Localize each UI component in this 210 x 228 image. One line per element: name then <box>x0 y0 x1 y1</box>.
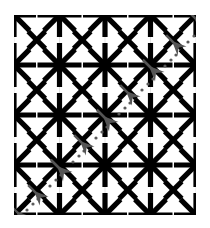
asterisk-node <box>129 143 173 187</box>
trail-dot <box>25 208 28 211</box>
trail-dot <box>54 178 57 181</box>
trail-dot <box>140 88 143 91</box>
asterisk-node <box>83 43 127 87</box>
trail-dot <box>71 160 74 163</box>
asterisk-node <box>129 93 173 137</box>
trail-dot <box>117 112 120 115</box>
lattice-illusion-figure <box>0 0 210 228</box>
trail-dot <box>48 184 51 187</box>
trail-dot <box>100 130 103 133</box>
trail-dot <box>31 202 34 205</box>
trail-dot <box>146 82 149 85</box>
trail-dot <box>186 40 189 43</box>
asterisk-node <box>83 143 127 187</box>
figure-canvas <box>0 0 210 228</box>
asterisk-node <box>83 93 127 137</box>
asterisk-node <box>38 93 82 137</box>
asterisk-node <box>38 43 82 87</box>
trail-dot <box>77 154 80 157</box>
trail-dot <box>94 136 97 139</box>
trail-dot <box>192 34 195 37</box>
trail-dot <box>163 64 166 67</box>
trail-dot <box>169 58 172 61</box>
trail-dot <box>123 106 126 109</box>
asterisk-node <box>38 143 82 187</box>
